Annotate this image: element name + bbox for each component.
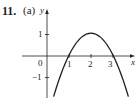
y-tick-label-neg1: −1 [32,73,42,82]
x-axis-label: x [131,58,135,67]
y-tick-label-1: 1 [38,30,43,39]
parabola-graph [0,0,136,109]
x-tick-label-1: 1 [67,60,72,69]
y-axis-label: y [40,6,44,15]
x-tick-label-2: 2 [88,60,93,69]
origin-label: 0 [38,59,43,68]
y-axis-arrow-icon [45,9,49,14]
x-tick-label-3: 3 [108,60,113,69]
